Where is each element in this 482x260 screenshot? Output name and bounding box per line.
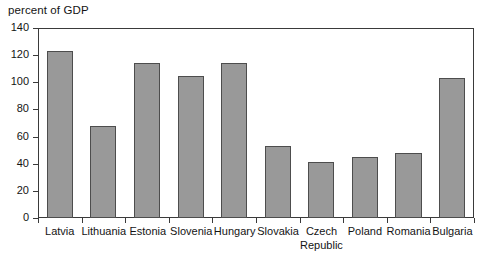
x-axis-label-line: Slovakia [256, 225, 299, 239]
bar-slot [212, 28, 256, 218]
bar-slot [256, 28, 300, 218]
y-axis-tick-label: 0 [23, 210, 29, 225]
x-axis-tick-mark [343, 218, 344, 223]
y-axis-tick-label: 60 [17, 129, 29, 144]
x-axis-label: Estonia [126, 225, 169, 252]
x-axis-tick-mark [169, 218, 170, 223]
x-axis-label-line: Slovenia [170, 225, 213, 239]
x-axis-label-line: Bulgaria [431, 225, 474, 239]
x-axis-ticks [38, 218, 474, 224]
y-axis-tick-label: 100 [11, 74, 29, 89]
bar [352, 157, 378, 218]
x-axis-tick-mark [82, 218, 83, 223]
bar [395, 153, 421, 218]
bar [90, 126, 116, 218]
x-axis-tick-mark [38, 218, 39, 223]
chart-title: percent of GDP [8, 3, 89, 17]
x-axis-label-line: Czech [300, 225, 343, 239]
x-axis-label-line: Lithuania [81, 225, 126, 239]
x-axis-label-line: Estonia [126, 225, 169, 239]
bar [265, 146, 291, 218]
bar-slot [125, 28, 169, 218]
bar-slot [82, 28, 126, 218]
x-axis-label: Hungary [213, 225, 256, 252]
bar [221, 63, 247, 218]
bar-slot [300, 28, 344, 218]
x-axis-label: Latvia [38, 225, 81, 252]
bar [439, 78, 465, 218]
bar-slot [387, 28, 431, 218]
x-axis-tick-mark [387, 218, 388, 223]
x-axis-tick-mark [212, 218, 213, 223]
x-axis-tick-mark [300, 218, 301, 223]
x-axis-label-line: Hungary [213, 225, 256, 239]
y-axis-tick-label: 20 [17, 183, 29, 198]
bar [47, 51, 73, 218]
y-axis: 020406080100120140 [0, 28, 38, 218]
x-axis-label-line: Romania [387, 225, 431, 239]
x-axis-label: Bulgaria [431, 225, 474, 252]
x-axis-label: Slovakia [256, 225, 299, 252]
x-axis-tick-mark [125, 218, 126, 223]
x-axis-label-line: Republic [300, 239, 343, 253]
bar-slot [343, 28, 387, 218]
x-axis-label-line: Poland [343, 225, 386, 239]
x-axis-label: Romania [387, 225, 431, 252]
bar-slot [430, 28, 474, 218]
bars-layer [38, 28, 474, 218]
y-axis-tick-label: 80 [17, 101, 29, 116]
y-axis-tick-label: 120 [11, 47, 29, 62]
y-axis-tick-label: 40 [17, 156, 29, 171]
bar [178, 76, 204, 219]
bar [308, 162, 334, 218]
bar-slot [169, 28, 213, 218]
x-axis-label: Slovenia [170, 225, 213, 252]
x-axis-label-line: Latvia [38, 225, 81, 239]
bar [134, 63, 160, 218]
bar-chart: percent of GDP 020406080100120140 Latvia… [0, 0, 482, 260]
x-axis-tick-mark [256, 218, 257, 223]
x-axis-label: CzechRepublic [300, 225, 343, 252]
bar-slot [38, 28, 82, 218]
x-axis-label: Poland [343, 225, 386, 252]
x-axis-label: Lithuania [81, 225, 126, 252]
y-axis-tick-label: 140 [11, 20, 29, 35]
x-axis-tick-mark [474, 218, 475, 223]
x-axis-labels: LatviaLithuaniaEstoniaSloveniaHungarySlo… [38, 225, 474, 252]
x-axis-tick-mark [430, 218, 431, 223]
